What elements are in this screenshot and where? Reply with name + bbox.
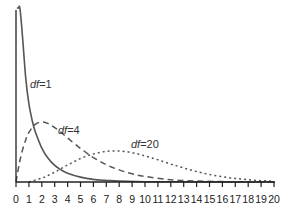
- x-tick-labels: 01234567891011121314151617181920: [13, 193, 280, 205]
- plot-area: [16, 6, 274, 182]
- x-tick-label: 20: [268, 193, 280, 205]
- label-df4: df=4: [58, 124, 80, 136]
- curve-df1: [17, 6, 274, 182]
- x-tick-label: 5: [78, 193, 84, 205]
- x-tick-label: 6: [90, 193, 96, 205]
- chi-square-chart: 01234567891011121314151617181920 df=1 df…: [0, 0, 288, 211]
- x-tick-label: 4: [65, 193, 71, 205]
- x-tick-label: 3: [52, 193, 58, 205]
- label-df20: df=20: [131, 138, 159, 150]
- x-tick-label: 10: [139, 193, 151, 205]
- x-tick-label: 8: [116, 193, 122, 205]
- x-tick-label: 15: [204, 193, 216, 205]
- x-tick-label: 18: [242, 193, 254, 205]
- x-tick-label: 16: [217, 193, 229, 205]
- x-tick-label: 11: [152, 193, 163, 205]
- x-tick-label: 2: [39, 193, 45, 205]
- x-tick-label: 1: [26, 193, 32, 205]
- x-tick-label: 7: [103, 193, 109, 205]
- x-tick-label: 14: [191, 193, 203, 205]
- curve-df4: [16, 122, 274, 182]
- x-tick-label: 13: [178, 193, 190, 205]
- label-df1: df=1: [30, 78, 52, 90]
- x-tick-label: 12: [165, 193, 177, 205]
- x-tick-label: 0: [13, 193, 19, 205]
- x-ticks: [16, 182, 274, 187]
- x-tick-label: 17: [229, 193, 241, 205]
- x-tick-label: 19: [255, 193, 267, 205]
- x-tick-label: 9: [129, 193, 135, 205]
